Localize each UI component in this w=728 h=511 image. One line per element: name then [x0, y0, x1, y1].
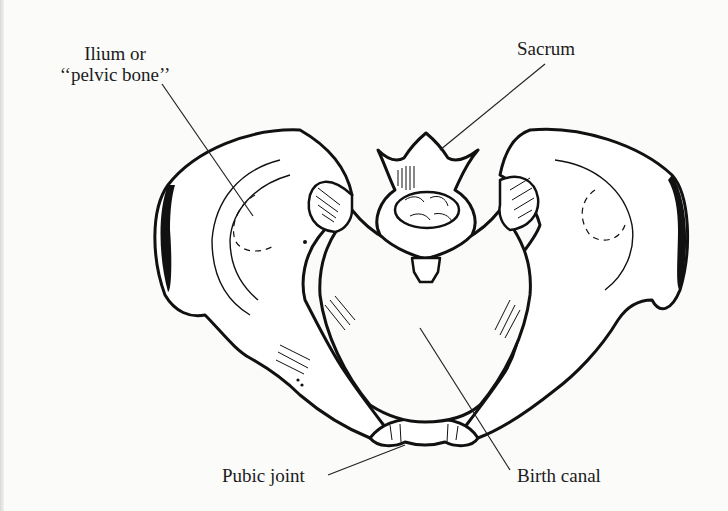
label-pubic-joint: Pubic joint	[222, 465, 305, 486]
leader-pubic-joint	[328, 445, 405, 475]
sacrum-body	[395, 192, 459, 228]
label-sacrum: Sacrum	[517, 38, 575, 59]
label-birth-canal: Birth canal	[517, 465, 601, 486]
label-ilium: Ilium or ‘‘pelvic bone’’	[55, 43, 175, 85]
label-ilium-line2: ‘‘pelvic bone’’	[55, 64, 175, 85]
label-ilium-line1: Ilium or	[55, 43, 175, 64]
